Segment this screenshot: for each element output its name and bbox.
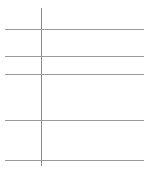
column-divider	[41, 8, 42, 166]
row-line-5	[5, 160, 144, 161]
faint-header-text	[25, 0, 125, 4]
row-line-1	[5, 29, 144, 30]
row-line-3	[5, 74, 144, 75]
row-line-4	[5, 120, 144, 121]
row-line-2	[5, 56, 144, 57]
